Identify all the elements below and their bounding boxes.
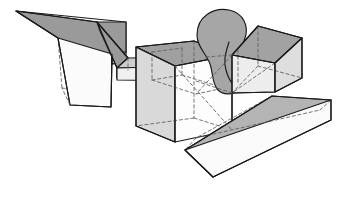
drawing-canvas [0, 0, 346, 200]
exploded-solids-figure [0, 0, 346, 200]
left-wedge [16, 11, 128, 107]
